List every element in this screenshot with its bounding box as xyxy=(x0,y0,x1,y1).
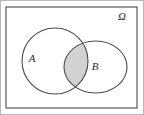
venn-diagram-figure: A B Ω xyxy=(0,0,144,115)
universal-set-label: Ω xyxy=(118,10,126,22)
set-a-label: A xyxy=(28,52,36,64)
venn-diagram-canvas: A B Ω xyxy=(0,0,144,115)
set-b-label: B xyxy=(92,60,99,72)
